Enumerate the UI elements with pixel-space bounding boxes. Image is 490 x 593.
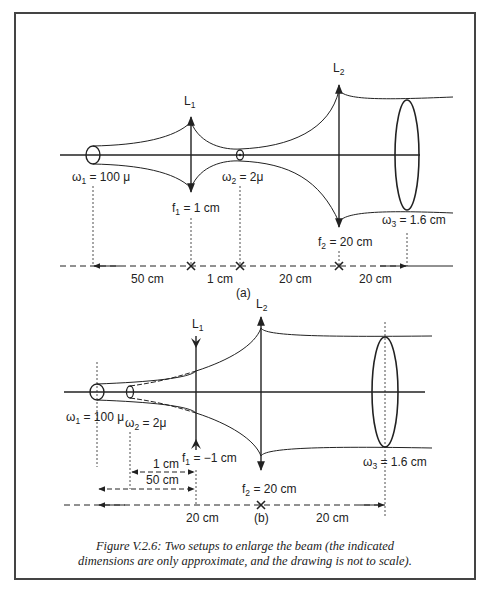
l1-label-b: L1: [192, 317, 204, 333]
waist3-label-a: ω3 = 1.6 cm: [382, 213, 446, 229]
caption-line-1: Figure V.2.6: Two setups to enlarge the …: [30, 539, 460, 554]
figure-caption: Figure V.2.6: Two setups to enlarge the …: [30, 539, 460, 569]
waist2-label-b: ω2 = 2μ: [125, 416, 166, 432]
dist-1cm-a: 1 cm: [207, 272, 233, 286]
label-a: (a): [236, 286, 251, 300]
waist1-label-a: ω1 = 100 μ: [72, 170, 130, 186]
dist-20cm-a2: 20 cm: [359, 272, 392, 286]
dist-20cm-a1: 20 cm: [279, 272, 312, 286]
f2-label-b: f2 = 20 cm: [242, 482, 296, 498]
setup-b: L1 L2 ω1 = 100 μ ω2 = 2μ f1 = −1 cm ω3 =…: [64, 297, 432, 525]
waist2-label-a: ω2 = 2μ: [222, 170, 263, 186]
dist-50cm-b: 50 cm: [146, 473, 179, 487]
dist-20cm-b1: 20 cm: [186, 511, 219, 525]
f1-label-a: f1 = 1 cm: [172, 201, 220, 217]
l2-label-a: L2: [333, 61, 345, 77]
dist-50cm-a: 50 cm: [131, 272, 164, 286]
dist-20cm-b2: 20 cm: [316, 511, 349, 525]
waist3-label-b: ω3 = 1.6 cm: [363, 455, 427, 471]
l1-label-a: L1: [184, 94, 196, 110]
l2-label-b: L2: [256, 297, 268, 313]
dist-1cm-b: 1 cm: [153, 457, 179, 471]
waist1-label-b: ω1 = 100 μ: [66, 410, 124, 426]
setup-a: L1 L2 ω1 = 100 μ ω2 = 2μ f1 = 1 cm ω3 = …: [60, 61, 453, 300]
beam-expander-diagram: L1 L2 ω1 = 100 μ ω2 = 2μ f1 = 1 cm ω3 = …: [0, 0, 490, 593]
caption-line-2: dimensions are only approximate, and the…: [30, 554, 460, 569]
f2-label-a: f2 = 20 cm: [318, 235, 372, 251]
label-b: (b): [254, 511, 269, 525]
f1-label-b: f1 = −1 cm: [182, 451, 237, 467]
